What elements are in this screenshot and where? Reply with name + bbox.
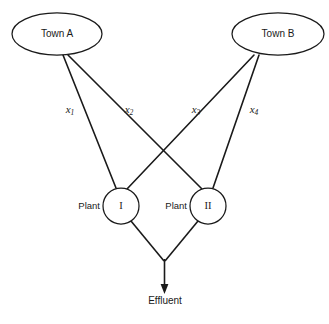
flow-label-x3: x3: [191, 103, 201, 117]
plant-2-prefix-label: Plant: [165, 200, 187, 211]
flow-network-diagram: Town A Town B x1 x2 x3 x4 Plant: [0, 0, 329, 324]
flow-label-x2: x2: [124, 103, 134, 117]
flow-edge-x2: [68, 55, 202, 189]
source-node-town-b[interactable]: Town B: [232, 13, 324, 55]
flow-label-x1-sub: 1: [71, 108, 75, 117]
effluent-label: Effluent: [148, 295, 182, 306]
flow-edge-x3: [127, 55, 254, 189]
flow-label-x1: x1: [65, 103, 75, 117]
town-a-label: Town A: [41, 28, 74, 39]
plant-node-1[interactable]: Plant I: [78, 188, 139, 224]
diagram-canvas: Town A Town B x1 x2 x3 x4 Plant: [0, 0, 329, 324]
plant-node-2[interactable]: Plant II: [165, 188, 226, 224]
flow-variable-labels: x1 x2 x3 x4: [65, 103, 259, 117]
source-node-town-a[interactable]: Town A: [12, 13, 102, 55]
plant-2-numeral-label: II: [205, 200, 212, 211]
outlet-edge-plant-1: [131, 221, 164, 261]
outlet-edges: [131, 221, 198, 294]
flow-label-x4: x4: [249, 103, 259, 117]
flow-edge-x1: [63, 55, 116, 188]
flow-label-x4-sub: 4: [255, 108, 259, 117]
plant-1-prefix-label: Plant: [78, 200, 100, 211]
plant-1-numeral-label: I: [119, 200, 123, 211]
outlet-edge-plant-2: [165, 221, 198, 261]
town-b-label: Town B: [262, 28, 295, 39]
flow-edges: [63, 55, 259, 189]
flow-label-x2-sub: 2: [130, 108, 134, 117]
flow-label-x3-sub: 3: [196, 108, 201, 117]
effluent-arrowhead: [161, 284, 169, 294]
